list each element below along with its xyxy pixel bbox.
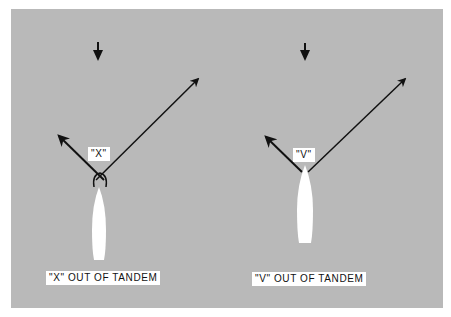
boat-x <box>92 187 106 260</box>
caption-x: "X" OUT OF TANDEM <box>46 271 160 285</box>
down-arrow-icon <box>300 43 310 61</box>
down-arrow-icon <box>93 42 103 61</box>
tag-label-v: "V" <box>293 148 315 162</box>
panel-v <box>266 43 405 243</box>
diagram-canvas <box>0 0 451 317</box>
line-right <box>308 79 405 172</box>
tag-label-x: "X" <box>88 147 110 161</box>
panel-x <box>59 42 198 260</box>
caption-v: "V" OUT OF TANDEM <box>252 272 366 286</box>
boat-v <box>297 165 313 243</box>
line-right <box>96 79 198 180</box>
